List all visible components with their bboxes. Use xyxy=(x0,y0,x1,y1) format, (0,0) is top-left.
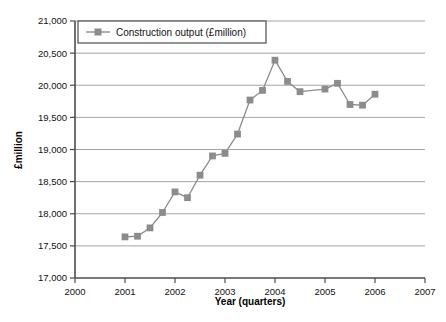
data-point-marker xyxy=(334,80,341,87)
y-axis-tick-label: 18,000 xyxy=(38,208,67,219)
legend: Construction output (£million) xyxy=(78,21,266,43)
chart-container: 17,00017,50018,00018,50019,00019,50020,0… xyxy=(0,0,446,322)
y-axis-tick-label: 18,500 xyxy=(38,176,67,187)
y-axis-tick-labels: 17,00017,50018,00018,50019,00019,50020,0… xyxy=(38,15,67,283)
data-point-marker xyxy=(184,194,191,201)
data-point-marker xyxy=(234,131,241,138)
y-axis-tick-label: 17,500 xyxy=(38,240,67,251)
data-point-marker xyxy=(147,224,154,231)
data-point-marker xyxy=(284,78,291,85)
data-point-marker xyxy=(172,189,179,196)
legend-item-label: Construction output (£million) xyxy=(116,27,246,38)
data-point-marker xyxy=(359,102,366,109)
data-point-marker xyxy=(159,209,166,216)
data-point-marker xyxy=(222,150,229,157)
x-axis-tick-label: 2000 xyxy=(64,286,85,297)
legend-marker-sample xyxy=(95,29,102,36)
y-axis-tick-label: 21,000 xyxy=(38,15,67,26)
y-axis-tick-label: 20,500 xyxy=(38,48,67,59)
y-axis-tick-label: 17,000 xyxy=(38,272,67,283)
data-point-marker xyxy=(259,87,266,94)
data-point-marker xyxy=(297,88,304,95)
data-point-marker xyxy=(209,153,216,160)
x-axis-tick-label: 2005 xyxy=(314,286,335,297)
data-point-marker xyxy=(197,172,204,179)
data-point-marker xyxy=(247,97,254,104)
x-axis-tick-label: 2006 xyxy=(364,286,385,297)
x-axis-title: Year (quarters) xyxy=(215,296,286,307)
y-axis-tick-label: 19,500 xyxy=(38,112,67,123)
y-axis-tick-label: 20,000 xyxy=(38,80,67,91)
x-axis-tick-label: 2007 xyxy=(414,286,435,297)
x-axis-tick-label: 2001 xyxy=(114,286,135,297)
y-axis-title: £million xyxy=(13,131,24,169)
data-point-marker xyxy=(322,86,329,93)
line-chart: 17,00017,50018,00018,50019,00019,50020,0… xyxy=(0,0,446,322)
data-point-marker xyxy=(372,91,379,98)
data-point-marker xyxy=(122,233,129,240)
data-point-marker xyxy=(347,101,354,108)
data-point-marker xyxy=(134,233,141,240)
x-axis-tick-label: 2002 xyxy=(164,286,185,297)
data-point-marker xyxy=(272,57,279,64)
y-axis-tick-label: 19,000 xyxy=(38,144,67,155)
